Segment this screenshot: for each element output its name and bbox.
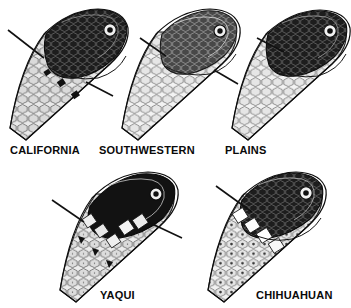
- eye-chihuahuan: [300, 187, 312, 199]
- figure-label-yaqui: YAQUI: [100, 290, 135, 301]
- figure-label-plains: PLAINS: [225, 145, 267, 156]
- figure-label-california: CALIFORNIA: [10, 145, 80, 156]
- figure-label-chihuahuan: CHIHUAHUAN: [256, 290, 333, 301]
- eye-california: [104, 24, 116, 36]
- illustration-plate: CALIFORNIA SOUTHWESTERN PLAINS YAQUI CHI…: [0, 0, 351, 308]
- figure-label-southwestern: SOUTHWESTERN: [99, 145, 195, 156]
- eye-plains: [324, 25, 336, 37]
- eye-southwestern: [214, 25, 226, 37]
- eye-yaqui: [150, 188, 162, 200]
